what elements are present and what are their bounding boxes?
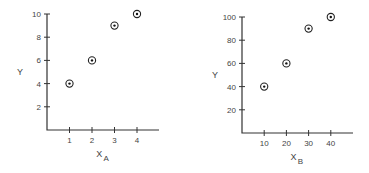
data-point <box>66 80 73 87</box>
data-point <box>305 25 312 32</box>
x-tick-label: 30 <box>304 139 313 148</box>
dot-marker-icon <box>113 24 115 26</box>
axes <box>242 17 353 133</box>
y-tick-label: 20 <box>227 106 236 115</box>
y-axis-label: Y <box>212 70 218 80</box>
x-tick-label: 10 <box>260 139 269 148</box>
data-point <box>88 57 95 64</box>
dot-marker-icon <box>285 62 287 64</box>
x-axis-label-subscript: B <box>298 157 303 166</box>
x-tick-label: 3 <box>112 136 117 145</box>
chart-a: 2468101234YXA <box>17 10 159 163</box>
dot-marker-icon <box>91 59 93 61</box>
dot-marker-icon <box>330 16 332 18</box>
y-tick-label: 10 <box>32 10 41 19</box>
x-tick-label: 4 <box>135 136 140 145</box>
data-point <box>111 22 118 29</box>
data-point <box>261 83 268 90</box>
x-axis-label: X <box>290 152 296 162</box>
y-tick-label: 2 <box>37 103 42 112</box>
dot-marker-icon <box>307 27 309 29</box>
data-point <box>133 10 140 17</box>
y-tick-label: 6 <box>37 56 42 65</box>
dot-marker-icon <box>68 82 70 84</box>
y-tick-label: 100 <box>223 13 237 22</box>
y-tick-label: 4 <box>37 80 42 89</box>
y-tick-label: 8 <box>37 33 42 42</box>
chart-b: 2040608010010203040YXB <box>212 13 353 166</box>
data-point <box>283 60 290 67</box>
dot-marker-icon <box>263 85 265 87</box>
dot-marker-icon <box>136 13 138 15</box>
y-tick-label: 60 <box>227 59 236 68</box>
scatter-plots: 2468101234YXA 2040608010010203040YXB <box>0 0 369 173</box>
y-tick-label: 80 <box>227 36 236 45</box>
y-axis-label: Y <box>17 67 23 77</box>
x-tick-label: 1 <box>67 136 72 145</box>
x-axis-label: X <box>96 149 102 159</box>
x-tick-label: 20 <box>282 139 291 148</box>
x-axis-label-subscript: A <box>104 154 110 163</box>
axes <box>47 14 159 130</box>
x-tick-label: 40 <box>326 139 335 148</box>
x-tick-label: 2 <box>90 136 95 145</box>
y-tick-label: 40 <box>227 83 236 92</box>
data-point <box>327 13 334 20</box>
